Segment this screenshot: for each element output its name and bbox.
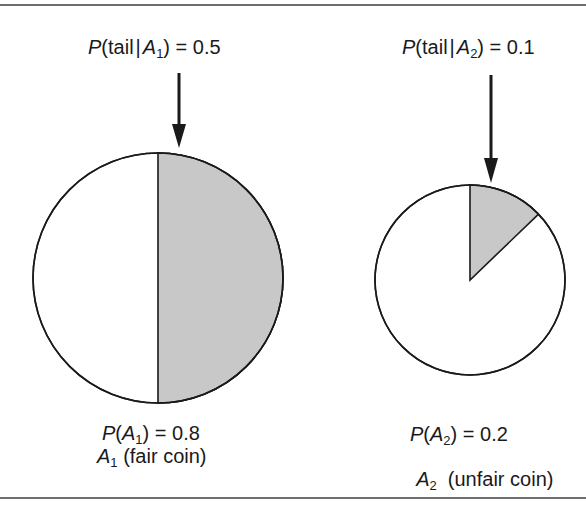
event-subscript: 2 bbox=[429, 478, 436, 493]
event-symbol: A bbox=[143, 36, 156, 58]
label-text: ) = bbox=[477, 36, 506, 58]
unfair-coin-circle bbox=[375, 185, 565, 375]
event-symbol: A bbox=[122, 422, 135, 444]
event-symbol: A bbox=[97, 445, 110, 467]
down-arrow-icon bbox=[484, 75, 498, 183]
event-description: (fair coin) bbox=[118, 445, 207, 467]
given-bar: | bbox=[136, 36, 141, 58]
event-symbol: A bbox=[430, 423, 443, 445]
label-text: ) = bbox=[451, 423, 480, 445]
probability-value: 0.2 bbox=[480, 423, 508, 445]
down-arrow-icon bbox=[172, 73, 186, 148]
event-subscript: 1 bbox=[110, 455, 117, 470]
event-symbol: A bbox=[457, 36, 470, 58]
fair-coin-tail-probability-label: P(tail|A1) = 0.5 bbox=[88, 36, 221, 58]
p-symbol: P bbox=[402, 36, 415, 58]
probability-value: 0.8 bbox=[172, 422, 200, 444]
given-bar: | bbox=[450, 36, 455, 58]
fair-coin-prior-label: P(A1) = 0.8 bbox=[102, 422, 200, 444]
unfair-coin-name-label: A2 (unfair coin) bbox=[405, 446, 553, 490]
label-text: ) = bbox=[163, 36, 192, 58]
p-symbol: P bbox=[88, 36, 101, 58]
label-text: (tail bbox=[415, 36, 447, 58]
label-text: (tail bbox=[101, 36, 133, 58]
unfair-coin-tail-probability-label: P(tail|A2) = 0.1 bbox=[402, 36, 535, 58]
fair-coin-circle bbox=[33, 153, 283, 403]
probability-value: 0.1 bbox=[507, 36, 535, 58]
label-text: ( bbox=[115, 422, 122, 444]
p-symbol: P bbox=[410, 423, 423, 445]
p-symbol: P bbox=[102, 422, 115, 444]
event-description: (unfair coin) bbox=[437, 468, 554, 490]
fair-coin-tail-region bbox=[158, 153, 283, 403]
probability-value: 0.5 bbox=[193, 36, 221, 58]
fair-coin-name-label: A1 (fair coin) bbox=[97, 445, 206, 467]
label-text: ( bbox=[423, 423, 430, 445]
label-text: ) = bbox=[143, 422, 172, 444]
unfair-coin-prior-label: P(A2) = 0.2 bbox=[410, 423, 508, 445]
event-symbol: A bbox=[416, 468, 429, 490]
